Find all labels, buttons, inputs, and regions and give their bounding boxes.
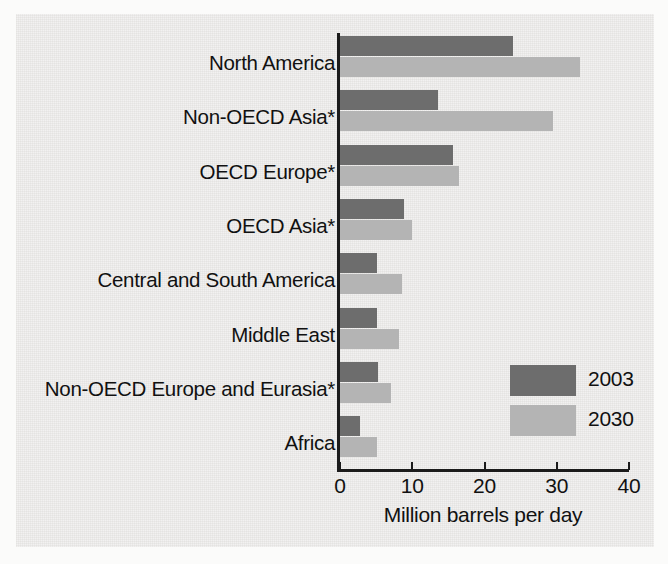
- x-axis-tick: [628, 462, 630, 470]
- bar-2003-middle-east: [340, 308, 377, 328]
- bar-2003-oecd-europe: [340, 145, 453, 165]
- bar-2030-non-oecd-europe-and-eurasia: [340, 383, 391, 403]
- x-axis-tick: [484, 462, 486, 470]
- bar-2030-oecd-europe: [340, 166, 459, 186]
- bar-2030-africa: [340, 437, 377, 457]
- legend-swatch-2003: [510, 365, 576, 396]
- category-label-non-oecd-asia: Non-OECD Asia*: [183, 105, 335, 129]
- chart-figure: North AmericaNon-OECD Asia*OECD Europe*O…: [0, 0, 668, 564]
- bar-2003-central-and-south-america: [340, 253, 377, 273]
- category-label-north-america: North America: [209, 51, 335, 75]
- bar-2003-non-oecd-europe-and-eurasia: [340, 362, 378, 382]
- y-axis-line: [337, 33, 340, 472]
- bar-2030-central-and-south-america: [340, 274, 402, 294]
- x-axis-tick: [411, 462, 413, 470]
- bar-2030-oecd-asia: [340, 220, 412, 240]
- category-label-non-oecd-europe-and-eurasia: Non-OECD Europe and Eurasia*: [45, 377, 335, 401]
- x-axis-tick: [339, 462, 341, 470]
- x-axis-tick-label: 0: [318, 474, 362, 498]
- plot-area: North AmericaNon-OECD Asia*OECD Europe*O…: [0, 0, 668, 564]
- x-axis-tick-label: 10: [390, 474, 434, 498]
- bar-2030-north-america: [340, 57, 580, 77]
- x-axis-tick-label: 40: [607, 474, 651, 498]
- category-label-africa: Africa: [284, 431, 335, 455]
- legend-label-2030: 2030: [588, 407, 634, 431]
- category-label-middle-east: Middle East: [231, 323, 335, 347]
- x-axis-title: Million barrels per day: [337, 503, 629, 527]
- category-label-oecd-asia: OECD Asia*: [226, 214, 335, 238]
- bar-2003-oecd-asia: [340, 199, 404, 219]
- bar-2003-africa: [340, 416, 360, 436]
- x-axis-tick: [556, 462, 558, 470]
- x-axis-tick-label: 30: [535, 474, 579, 498]
- category-label-oecd-europe: OECD Europe*: [200, 160, 335, 184]
- legend-label-2003: 2003: [588, 367, 634, 391]
- legend-swatch-2030: [510, 405, 576, 436]
- bar-2030-non-oecd-asia: [340, 111, 553, 131]
- bar-2003-non-oecd-asia: [340, 90, 438, 110]
- category-label-central-and-south-america: Central and South America: [98, 268, 336, 292]
- bar-2030-middle-east: [340, 329, 399, 349]
- bar-2003-north-america: [340, 36, 513, 56]
- x-axis-tick-label: 20: [463, 474, 507, 498]
